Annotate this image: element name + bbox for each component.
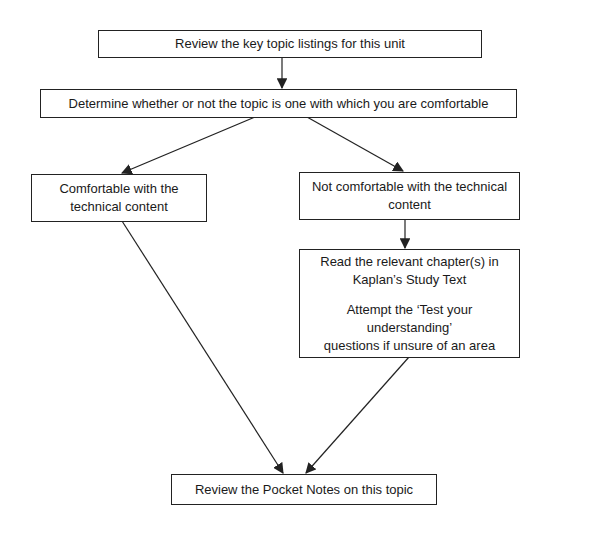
arrow-comfortable-to-pocket-notes [122, 221, 283, 473]
arrow-study-to-pocket-notes [306, 357, 409, 473]
node-text: Determine whether or not the topic is on… [69, 95, 489, 113]
node-text: Review the Pocket Notes on this topic [195, 481, 413, 499]
node-determine-comfort: Determine whether or not the topic is on… [40, 89, 517, 118]
node-text-line-1: Read the relevant chapter(s) in [320, 253, 498, 271]
node-text-line-2: Kaplan’s Study Text [353, 271, 467, 289]
node-text-line-2: content [388, 196, 431, 214]
node-text-line-3: Attempt the ‘Test your understanding’ [306, 301, 513, 337]
node-comfortable: Comfortable with the technical content [31, 174, 207, 222]
node-review-topic-listings: Review the key topic listings for this u… [98, 30, 482, 58]
node-study-text: Read the relevant chapter(s) in Kaplan’s… [299, 249, 520, 358]
node-text-line-1: Not comfortable with the technical [312, 178, 507, 196]
arrow-determine-to-not-comfortable [307, 117, 403, 171]
node-text-line-2: technical content [70, 198, 168, 216]
node-review-pocket-notes: Review the Pocket Notes on this topic [171, 474, 437, 505]
node-text-line-1: Comfortable with the [59, 180, 178, 198]
arrow-determine-to-comfortable [122, 117, 255, 173]
node-not-comfortable: Not comfortable with the technical conte… [299, 172, 520, 220]
node-text: Review the key topic listings for this u… [175, 35, 405, 53]
node-text-line-4: questions if unsure of an area [324, 337, 495, 355]
